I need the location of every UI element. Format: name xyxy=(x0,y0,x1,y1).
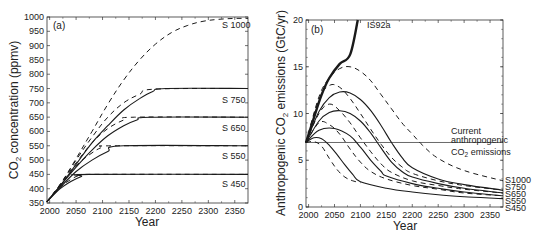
series-line-s-650-dashed xyxy=(47,117,248,202)
series-line-s1000 xyxy=(306,67,503,181)
series-label-s1000: S 1000 xyxy=(222,20,251,30)
x-tick-label: 2000 xyxy=(299,210,319,220)
y-tick-label: 550 xyxy=(29,141,44,151)
x-tick-label: 2100 xyxy=(350,210,370,220)
panel-a-label: (a) xyxy=(53,20,65,31)
panel-b-y-title-rest: emissions (GtC/yr) xyxy=(274,10,288,113)
y-tick-label: 15 xyxy=(293,62,303,72)
panel-a-y-axis: 3504004505005506006507007508008509009501… xyxy=(24,12,248,208)
panel-a-y-title-main: CO xyxy=(7,161,21,179)
panel-b-series-labels: S1000S750S650S550S450 xyxy=(505,175,531,213)
panel-a-series xyxy=(47,18,248,201)
series-line-s-550 xyxy=(47,145,248,201)
x-tick-label: 2350 xyxy=(225,206,245,216)
y-tick-label: 1000 xyxy=(24,12,44,22)
panel-b-x-axis-title: Year xyxy=(393,219,417,233)
reference-label-line3: CO2 emissions xyxy=(451,147,511,158)
panel-b-plot-frame xyxy=(306,20,503,207)
series-line-s-650 xyxy=(47,117,248,202)
series-label-s550: S 550 xyxy=(222,151,246,161)
y-tick-label: 800 xyxy=(29,69,44,79)
x-tick-label: 2250 xyxy=(172,206,192,216)
x-tick-label: 2100 xyxy=(93,206,113,216)
reference-label-co: CO xyxy=(451,147,465,157)
series-line-s-550-dashed xyxy=(47,146,248,202)
y-tick-label: 850 xyxy=(29,55,44,65)
panel-b-y-title-main: Anthropogenic CO xyxy=(274,117,288,216)
x-tick-label: 2350 xyxy=(480,210,500,220)
x-tick-label: 2050 xyxy=(324,210,344,220)
panel-a-x-axis-title: Year xyxy=(135,215,159,229)
panel-b-y-axis-title: Anthropogenic CO2 emissions (GtC/yr) xyxy=(274,10,290,216)
y-tick-label: 500 xyxy=(29,155,44,165)
y-tick-label: 950 xyxy=(29,26,44,36)
series-label-s750: S 750 xyxy=(222,95,246,105)
series-line-s450-dashed xyxy=(306,141,360,182)
series-label-s650: S 650 xyxy=(222,123,246,133)
panel-b-series xyxy=(306,20,503,199)
y-tick-label: 450 xyxy=(29,169,44,179)
reference-label-line2: anthropogenic xyxy=(451,135,509,145)
y-tick-label: 20 xyxy=(293,15,303,25)
y-tick-label: 750 xyxy=(29,84,44,94)
series-label-s450: S 450 xyxy=(222,179,246,189)
panel-a-y-title-rest: concentration (ppmv) xyxy=(7,41,21,157)
panel-b-label: (b) xyxy=(311,24,323,35)
y-tick-label: 900 xyxy=(29,41,44,51)
y-tick-label: 700 xyxy=(29,98,44,108)
y-tick-label: 600 xyxy=(29,126,44,136)
series-line-s-450 xyxy=(47,174,248,201)
y-tick-label: 10 xyxy=(293,109,303,119)
panel-a-concentration-chart: 3504004505005506006507007508008509009501… xyxy=(7,12,251,229)
y-tick-label: 5 xyxy=(298,155,303,165)
reference-label-rest: emissions xyxy=(468,147,511,157)
series-label-s450: S450 xyxy=(505,203,526,213)
x-tick-label: 2250 xyxy=(428,210,448,220)
x-tick-label: 2300 xyxy=(198,206,218,216)
x-tick-label: 2300 xyxy=(454,210,474,220)
is92a-label: IS92a xyxy=(367,20,391,30)
y-tick-label: 650 xyxy=(29,112,44,122)
x-tick-label: 2050 xyxy=(66,206,86,216)
figure: 3504004505005506006507007508008509009501… xyxy=(0,0,546,241)
panel-a-y-axis-title: CO2 concentration (ppmv) xyxy=(7,41,23,180)
panel-b-emissions-chart: 05101520 2000205021002150220022502300235… xyxy=(274,10,531,233)
y-tick-label: 400 xyxy=(29,184,44,194)
x-tick-label: 2000 xyxy=(40,206,60,216)
